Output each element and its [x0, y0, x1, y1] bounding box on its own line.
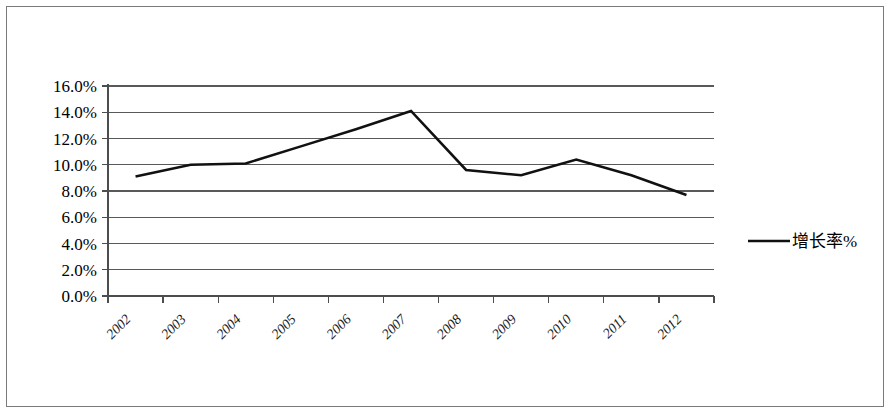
chart-legend[interactable]: 增长率%	[748, 232, 857, 251]
x-axis-tick-label: 2003	[158, 312, 188, 342]
x-axis-tick-label: 2010	[544, 312, 574, 342]
x-axis-tick-label: 2004	[213, 312, 243, 342]
series-line-growth-rate	[136, 111, 687, 195]
legend-label: 增长率%	[792, 232, 857, 251]
y-axis-tick-label: 2.0%	[62, 261, 97, 280]
x-axis-tick-label: 2012	[654, 312, 684, 342]
chart-page: 16.0%14.0%12.0%10.0%8.0%6.0%4.0%2.0%0.0%…	[0, 0, 891, 414]
x-axis-tick-label: 2008	[434, 312, 464, 342]
y-axis-tick-label: 10.0%	[53, 156, 97, 175]
y-axis-tick-label: 4.0%	[62, 235, 97, 254]
y-axis-tick-label: 8.0%	[62, 182, 97, 201]
y-axis-tick-label: 6.0%	[62, 208, 97, 227]
y-axis-tick-label: 16.0%	[53, 77, 97, 96]
x-axis-tick-label: 2006	[324, 312, 354, 342]
y-axis-tick-label: 14.0%	[53, 103, 97, 122]
y-axis-tick-labels: 16.0%14.0%12.0%10.0%8.0%6.0%4.0%2.0%0.0%	[53, 77, 108, 306]
x-axis-tick-label: 2005	[269, 312, 299, 342]
y-axis-tick-label: 12.0%	[53, 130, 97, 149]
x-axis-tick-label: 2002	[103, 312, 133, 342]
gridlines	[108, 86, 714, 296]
line-chart: 16.0%14.0%12.0%10.0%8.0%6.0%4.0%2.0%0.0%…	[0, 0, 891, 414]
axis-lines	[108, 84, 714, 300]
x-axis-tick-label: 2007	[379, 311, 410, 342]
data-series	[136, 111, 687, 195]
y-axis-tick-label: 0.0%	[62, 287, 97, 306]
x-axis-tick-label: 2009	[489, 312, 519, 342]
x-axis-tick-label: 2011	[600, 312, 630, 342]
x-axis-tick-marks	[108, 296, 714, 303]
x-axis-tick-labels: 2002200320042005200620072008200920102011…	[103, 311, 684, 342]
